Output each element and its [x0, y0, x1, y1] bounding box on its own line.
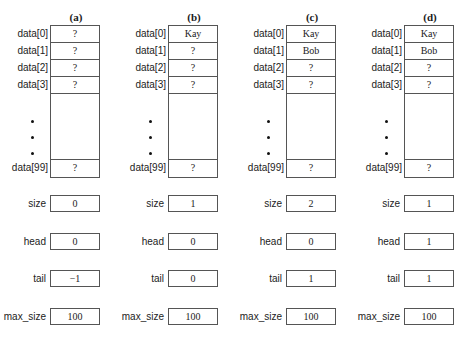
variable-row-head-a: head 0	[6, 233, 124, 250]
ellipsis-dot-icon	[31, 136, 34, 139]
variable-row-maxsize-b: max_size 100	[124, 308, 242, 325]
ellipsis-dot-icon	[149, 120, 152, 123]
variable-row-size-d: size 1	[360, 195, 466, 212]
array-cell-99: ?	[405, 160, 453, 177]
row-label-data1: data[1]	[124, 42, 166, 59]
row-label-data99: data[99]	[242, 159, 284, 176]
variable-label-max-size: max_size	[230, 308, 282, 325]
column-header-a: (a)	[50, 11, 102, 23]
ellipsis-dot-icon	[31, 120, 34, 123]
row-label-data3: data[3]	[360, 76, 402, 93]
queue-state-diagram: (a) data[0] data[1] data[2] data[3] data…	[0, 0, 466, 346]
queue-state-column-c: (c) data[0] data[1] data[2] data[3] data…	[242, 0, 360, 346]
row-label-data0: data[0]	[242, 25, 284, 42]
variable-row-tail-d: tail 1	[360, 270, 466, 287]
array-cell-1: Bob	[287, 43, 335, 60]
variable-row-size-b: size 1	[124, 195, 242, 212]
variable-row-tail-c: tail 1	[242, 270, 360, 287]
array-cell-1: ?	[51, 43, 99, 60]
array-cell-3: ?	[405, 77, 453, 94]
row-label-data99: data[99]	[124, 159, 166, 176]
array-cell-2: ?	[287, 60, 335, 77]
variable-label-size: size	[356, 195, 400, 212]
array-box-c: Kay Bob ? ? ?	[286, 25, 336, 178]
column-header-d: (d)	[404, 11, 456, 23]
variable-label-max-size: max_size	[0, 308, 46, 325]
array-cell-gap	[287, 94, 335, 160]
array-cell-2: ?	[405, 60, 453, 77]
array-cell-2: ?	[169, 60, 217, 77]
variable-row-head-d: head 1	[360, 233, 466, 250]
array-cell-0: Kay	[287, 26, 335, 43]
variable-row-maxsize-d: max_size 100	[360, 308, 466, 325]
variable-label-head: head	[2, 233, 46, 250]
row-label-data0: data[0]	[6, 25, 48, 42]
array-box-a: ? ? ? ? ?	[50, 25, 100, 178]
variable-label-max-size: max_size	[348, 308, 400, 325]
row-label-data99: data[99]	[6, 159, 48, 176]
row-label-data3: data[3]	[6, 76, 48, 93]
array-cell-3: ?	[169, 77, 217, 94]
variable-value-tail: 0	[168, 270, 218, 287]
variable-value-head: 0	[50, 233, 100, 250]
ellipsis-dot-icon	[149, 152, 152, 155]
variable-value-tail: 1	[286, 270, 336, 287]
variable-label-tail: tail	[120, 270, 164, 287]
array-cell-3: ?	[287, 77, 335, 94]
array-cell-gap	[51, 94, 99, 160]
variable-label-tail: tail	[2, 270, 46, 287]
variable-row-tail-a: tail −1	[6, 270, 124, 287]
queue-state-column-d: (d) data[0] data[1] data[2] data[3] data…	[360, 0, 466, 346]
ellipsis-dot-icon	[31, 152, 34, 155]
variable-label-head: head	[356, 233, 400, 250]
array-cell-1: ?	[169, 43, 217, 60]
ellipsis-dot-icon	[267, 136, 270, 139]
variable-value-tail: −1	[50, 270, 100, 287]
variable-value-max-size: 100	[286, 308, 336, 325]
queue-state-column-a: (a) data[0] data[1] data[2] data[3] data…	[6, 0, 124, 346]
ellipsis-dots-d	[358, 118, 402, 160]
ellipsis-dot-icon	[267, 152, 270, 155]
variable-value-size: 0	[50, 195, 100, 212]
row-label-data3: data[3]	[242, 76, 284, 93]
array-cell-0: ?	[51, 26, 99, 43]
row-label-data1: data[1]	[242, 42, 284, 59]
variable-row-tail-b: tail 0	[124, 270, 242, 287]
variable-value-max-size: 100	[168, 308, 218, 325]
variable-value-head: 1	[404, 233, 454, 250]
row-label-data2: data[2]	[242, 59, 284, 76]
array-cell-99: ?	[51, 160, 99, 177]
variable-row-head-b: head 0	[124, 233, 242, 250]
array-cell-3: ?	[51, 77, 99, 94]
variable-value-size: 1	[404, 195, 454, 212]
row-label-data2: data[2]	[360, 59, 402, 76]
queue-state-column-b: (b) data[0] data[1] data[2] data[3] data…	[124, 0, 242, 346]
ellipsis-dots-b	[122, 118, 166, 160]
column-header-b: (b)	[168, 11, 220, 23]
ellipsis-dot-icon	[149, 136, 152, 139]
variable-label-tail: tail	[238, 270, 282, 287]
array-cell-gap	[169, 94, 217, 160]
variable-value-head: 0	[286, 233, 336, 250]
variable-row-maxsize-a: max_size 100	[6, 308, 124, 325]
ellipsis-dots-c	[240, 118, 284, 160]
array-cell-1: Bob	[405, 43, 453, 60]
array-box-b: Kay ? ? ? ?	[168, 25, 218, 178]
variable-value-size: 1	[168, 195, 218, 212]
row-label-data2: data[2]	[6, 59, 48, 76]
variable-label-size: size	[238, 195, 282, 212]
variable-row-head-c: head 0	[242, 233, 360, 250]
array-box-d: Kay Bob ? ? ?	[404, 25, 454, 178]
row-label-data1: data[1]	[360, 42, 402, 59]
array-cell-99: ?	[169, 160, 217, 177]
variable-label-head: head	[238, 233, 282, 250]
array-cell-99: ?	[287, 160, 335, 177]
variable-row-size-a: size 0	[6, 195, 124, 212]
column-header-c: (c)	[286, 11, 338, 23]
array-cell-0: Kay	[405, 26, 453, 43]
array-cell-0: Kay	[169, 26, 217, 43]
variable-value-head: 0	[168, 233, 218, 250]
ellipsis-dot-icon	[267, 120, 270, 123]
row-label-data3: data[3]	[124, 76, 166, 93]
variable-label-max-size: max_size	[112, 308, 164, 325]
